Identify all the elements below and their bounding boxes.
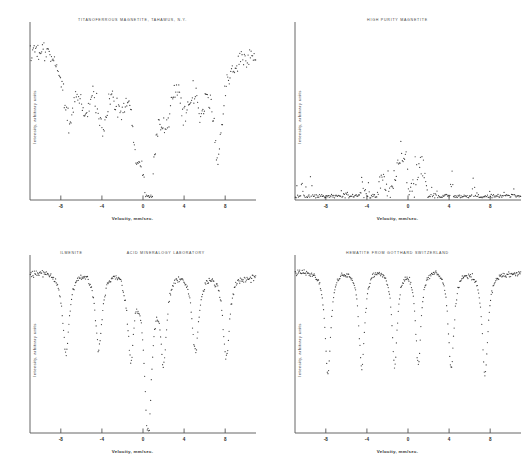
plot-canvas-1: -8-4048 (265, 0, 530, 233)
x-tick-label: 8 (224, 204, 227, 209)
data-points (295, 141, 521, 199)
plot-canvas-0: -8-4048 (0, 0, 265, 233)
panel-ilmenite: ILMENITE ACID MINERALOGY LABORATORY Inte… (0, 233, 265, 466)
x-axis-label: Velocity, mm/sec. (0, 449, 265, 454)
x-tick-label: 4 (183, 437, 186, 442)
x-tick-label: 4 (448, 204, 451, 209)
x-tick-label: -8 (59, 204, 64, 209)
x-tick-label: -4 (365, 204, 370, 209)
panel-high-purity-magnetite: HIGH PURITY MAGNETITE Intensity, arbitra… (265, 0, 530, 233)
x-tick-label: 0 (142, 204, 145, 209)
x-axis-label: Velocity, mm/sec. (265, 449, 530, 454)
figure-grid: TITANOFERROUS MAGNETITE, TAHAWUS, N.Y. I… (0, 0, 530, 466)
x-tick-label: -8 (59, 437, 64, 442)
panel-titanoferrous-magnetite: TITANOFERROUS MAGNETITE, TAHAWUS, N.Y. I… (0, 0, 265, 233)
x-tick-label: -4 (365, 437, 370, 442)
x-tick-label: 4 (448, 437, 451, 442)
x-tick-label: -4 (100, 204, 105, 209)
panel-hematite-gotthard: HEMATITE FROM GOTTHARD SWITZERLAND Inten… (265, 233, 530, 466)
x-tick-label: -8 (324, 437, 329, 442)
x-tick-label: 8 (489, 437, 492, 442)
x-tick-label: 0 (407, 437, 410, 442)
x-tick-label: 8 (489, 204, 492, 209)
x-tick-label: -4 (100, 437, 105, 442)
x-axis-label: Velocity, mm/sec. (0, 216, 265, 221)
data-points (295, 269, 522, 376)
x-tick-label: 0 (142, 437, 145, 442)
data-points (30, 270, 257, 432)
x-tick-label: 8 (224, 437, 227, 442)
x-axis-label: Velocity, mm/sec. (265, 216, 530, 221)
plot-canvas-3: -8-4048 (265, 233, 530, 466)
plot-canvas-2: -8-4048 (0, 233, 265, 466)
data-points (30, 42, 256, 198)
x-tick-label: 0 (407, 204, 410, 209)
x-tick-label: -8 (324, 204, 329, 209)
x-tick-label: 4 (183, 204, 186, 209)
